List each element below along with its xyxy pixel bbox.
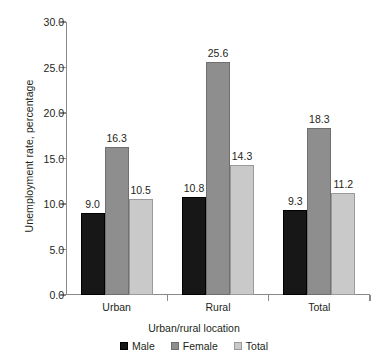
legend-item-male[interactable]: Male <box>120 340 155 352</box>
bar-total-male <box>283 210 307 295</box>
bar-value-label: 9.0 <box>85 198 100 210</box>
legend-label: Female <box>183 340 218 352</box>
bar-value-label: 18.3 <box>309 113 329 125</box>
y-tick-label: 20.0 <box>4 107 64 119</box>
y-axis-line <box>66 22 67 295</box>
bar-value-label: 9.3 <box>288 195 303 207</box>
x-axis-title: Urban/rural location <box>0 322 388 334</box>
bar-total-total <box>331 193 355 295</box>
bar-chart-figure: Unemployment rate, percentage 30.025.020… <box>0 0 388 361</box>
y-tick-label: 0.0 <box>4 289 64 301</box>
bar-value-label: 11.2 <box>333 178 353 190</box>
bar-total-female <box>307 128 331 295</box>
legend-swatch-male-icon <box>120 342 128 350</box>
bar-urban-male <box>81 213 105 295</box>
bar-rural-total <box>230 165 254 295</box>
x-category-label-rural: Rural <box>205 301 230 313</box>
legend-swatch-total-icon <box>234 342 242 350</box>
bar-value-label: 16.3 <box>106 132 126 144</box>
y-tick-label: 5.0 <box>4 244 64 256</box>
bar-rural-male <box>182 197 206 295</box>
bar-value-label: 14.3 <box>232 150 252 162</box>
legend-item-total[interactable]: Total <box>234 340 268 352</box>
chart-legend: MaleFemaleTotal <box>0 340 388 352</box>
y-tick-label: 25.0 <box>4 62 64 74</box>
x-tick-mark <box>268 295 269 301</box>
x-tick-mark <box>369 295 370 301</box>
legend-item-female[interactable]: Female <box>171 340 218 352</box>
bar-value-label: 10.8 <box>184 182 204 194</box>
x-category-label-urban: Urban <box>102 301 131 313</box>
y-tick-label: 30.0 <box>4 16 64 28</box>
y-tick-label: 15.0 <box>4 153 64 165</box>
y-tick-label: 10.0 <box>4 198 64 210</box>
legend-swatch-female-icon <box>171 342 179 350</box>
plot-area: 30.025.020.015.010.05.00.0 9.016.310.510… <box>66 22 370 295</box>
bar-urban-female <box>105 147 129 295</box>
bar-urban-total <box>129 199 153 295</box>
x-category-label-total: Total <box>308 301 330 313</box>
bar-value-label: 10.5 <box>130 184 150 196</box>
legend-label: Total <box>246 340 268 352</box>
bar-rural-female <box>206 62 230 295</box>
legend-label: Male <box>132 340 155 352</box>
x-tick-mark <box>167 295 168 301</box>
bar-value-label: 25.6 <box>208 47 228 59</box>
